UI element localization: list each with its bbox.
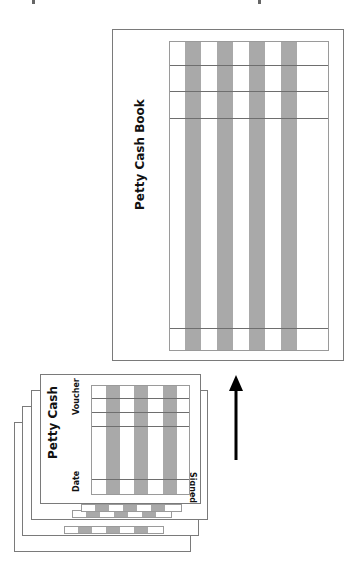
voucher-grid [91,385,190,495]
book-row-line [170,65,328,66]
voucher-grid-edge [81,504,182,512]
book-row-line [170,91,328,92]
voucher-row-line [92,398,189,399]
voucher-title: Petty Cash [46,386,60,459]
book-title: Petty Cash Book [133,99,147,210]
cropped-text-fragment [32,0,35,4]
date-label: Date [72,471,81,492]
voucher-column-3 [163,386,177,494]
book-column-1 [185,42,201,350]
voucher-row-line [92,479,189,480]
voucher-column-2 [134,386,148,494]
voucher-row-line [92,412,189,413]
book-grid [169,41,329,351]
book-column-2 [217,42,233,350]
voucher-label: Voucher [72,378,81,415]
book-column-3 [249,42,265,350]
cropped-text-fragment [258,0,261,4]
book-column-4 [281,42,297,350]
voucher-row-line [92,426,189,427]
book-row-line [170,118,328,119]
book-row-line [170,328,328,329]
petty-cash-voucher: Petty Cash Voucher Date Signed [40,374,201,504]
voucher-grid-edge [64,526,164,534]
arrow-up-icon [228,375,244,461]
petty-cash-book: Petty Cash Book [112,29,344,361]
voucher-column-1 [106,386,120,494]
